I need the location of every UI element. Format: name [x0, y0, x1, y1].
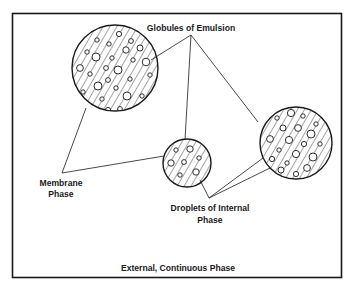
label-droplets-line1: Droplets of Internal: [171, 203, 250, 213]
label-external-continuous-phase: External, Continuous Phase: [121, 263, 235, 273]
globule-small-center: [163, 139, 211, 187]
label-droplets-line2: Phase: [197, 215, 223, 225]
globules-pointer-lines: [151, 35, 258, 140]
emulsion-diagram: Globules of Emulsion Membrane Phase Drop…: [0, 0, 350, 291]
membrane-pointer-lines: [62, 108, 164, 173]
globule-medium-right: [260, 107, 332, 179]
globule-large-left: [72, 25, 158, 113]
label-membrane-line1: Membrane: [40, 178, 83, 188]
label-globules-of-emulsion: Globules of Emulsion: [147, 23, 235, 33]
label-membrane-line2: Phase: [48, 189, 74, 199]
